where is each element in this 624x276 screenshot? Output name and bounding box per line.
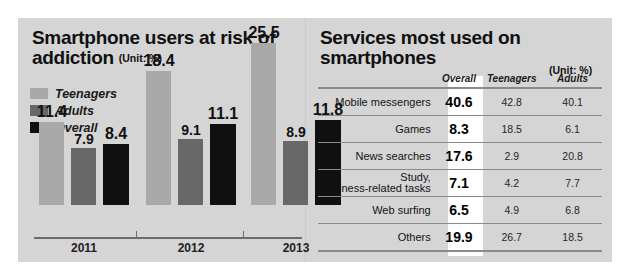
- row-value-teenagers: 4.2: [480, 170, 543, 197]
- header-overall: Overall: [438, 72, 481, 88]
- row-label: News searches: [318, 143, 438, 170]
- row-value-teenagers: 2.9: [480, 143, 543, 170]
- row-value-teenagers: 4.9: [480, 197, 543, 224]
- row-value-overall: 17.6: [438, 143, 481, 170]
- row-label: Mobile messengers: [318, 88, 438, 116]
- row-value-adults: 6.8: [543, 197, 602, 224]
- table-row: Games8.318.56.1: [318, 116, 602, 143]
- row-label: Study,business-related tasks: [318, 170, 438, 197]
- row-label-line1: Games: [395, 123, 430, 135]
- row-label-line1: Others: [398, 231, 431, 243]
- table-row: Web surfing6.54.96.8: [318, 197, 602, 224]
- row-value-adults: 20.8: [543, 143, 602, 170]
- row-label-line1: Mobile messengers: [335, 96, 430, 108]
- row-value-overall: 40.6: [438, 88, 481, 116]
- row-label: Games: [318, 116, 438, 143]
- row-label: Web surfing: [318, 197, 438, 224]
- row-value-adults: 40.1: [543, 88, 602, 116]
- header-teenagers: Teenagers: [480, 72, 543, 88]
- row-value-teenagers: 26.7: [480, 224, 543, 252]
- row-value-teenagers: 42.8: [480, 88, 543, 116]
- row-label-line2: business-related tasks: [318, 183, 431, 194]
- row-label: Others: [318, 224, 438, 252]
- header-blank: [318, 72, 438, 88]
- table-row: Mobile messengers40.642.840.1: [318, 88, 602, 116]
- services-table: Overall Teenagers Adults Mobile messenge…: [318, 72, 602, 252]
- row-value-overall: 19.9: [438, 224, 481, 252]
- bar-chart-overflow-group: [18, 18, 306, 262]
- table-header-row: Overall Teenagers Adults: [318, 72, 602, 88]
- row-label-line1: News searches: [355, 150, 430, 162]
- table-row: Others19.926.718.5: [318, 224, 602, 252]
- row-value-adults: 6.1: [543, 116, 602, 143]
- infographic-root: Smartphone users at risk of addiction(Un…: [0, 0, 624, 276]
- header-adults: Adults: [543, 72, 602, 88]
- right-chart-title: Services most used on smartphones: [320, 28, 570, 68]
- row-label-line1: Web surfing: [372, 204, 431, 216]
- row-value-adults: 7.7: [543, 170, 602, 197]
- row-value-overall: 7.1: [438, 170, 481, 197]
- table-row: Study,business-related tasks7.14.27.7: [318, 170, 602, 197]
- row-value-overall: 8.3: [438, 116, 481, 143]
- table-body: Mobile messengers40.642.840.1Games8.318.…: [318, 88, 602, 251]
- row-value-adults: 18.5: [543, 224, 602, 252]
- row-value-teenagers: 18.5: [480, 116, 543, 143]
- row-value-overall: 6.5: [438, 197, 481, 224]
- table-row: News searches17.62.920.8: [318, 143, 602, 170]
